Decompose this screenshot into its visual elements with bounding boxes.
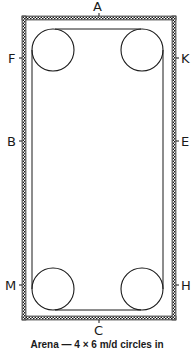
figure-caption: Arena — 4 × 6 m/d circles in <box>0 339 194 350</box>
marker-m: M <box>5 279 16 292</box>
circle-bottom-left <box>32 268 74 310</box>
circle-bottom-right <box>121 268 163 310</box>
circle-top-left <box>32 29 74 71</box>
marker-b: B <box>7 135 16 148</box>
arena-fence <box>22 16 176 320</box>
circle-top-right <box>121 29 163 71</box>
marker-ticks <box>19 13 179 323</box>
marker-e: E <box>181 135 189 148</box>
marker-f: F <box>8 52 15 65</box>
marker-c: C <box>94 324 103 337</box>
marker-k: K <box>181 52 190 65</box>
marker-h: H <box>181 279 191 292</box>
arena-diagram <box>0 0 194 357</box>
circles <box>32 29 163 310</box>
marker-a: A <box>93 0 102 13</box>
